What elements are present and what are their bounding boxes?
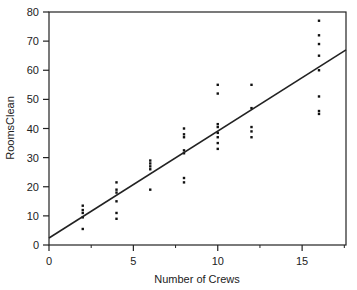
- data-point: [115, 191, 117, 193]
- x-tick-label: 15: [296, 255, 308, 267]
- data-point: [183, 136, 185, 138]
- y-axis: 01020304050607080: [27, 6, 49, 251]
- data-point: [217, 142, 219, 144]
- y-tick-label: 40: [27, 123, 39, 135]
- data-point: [183, 181, 185, 183]
- x-axis: 051015: [46, 245, 344, 267]
- data-point: [149, 159, 151, 161]
- data-point: [115, 188, 117, 190]
- data-point: [149, 162, 151, 164]
- y-tick-label: 80: [27, 6, 39, 18]
- data-point: [217, 92, 219, 94]
- data-point: [250, 126, 252, 128]
- data-point: [318, 110, 320, 112]
- data-point: [183, 133, 185, 135]
- data-points: [82, 20, 321, 231]
- data-point: [217, 123, 219, 125]
- data-point: [149, 168, 151, 170]
- data-point: [318, 113, 320, 115]
- y-tick-label: 70: [27, 35, 39, 47]
- y-axis-title: RoomsClean: [4, 96, 16, 160]
- y-tick-label: 30: [27, 152, 39, 164]
- data-point: [318, 43, 320, 45]
- data-point: [318, 95, 320, 97]
- data-point: [149, 188, 151, 190]
- data-point: [250, 84, 252, 86]
- data-point: [217, 126, 219, 128]
- data-point: [217, 136, 219, 138]
- y-tick-label: 0: [33, 239, 39, 251]
- data-point: [318, 34, 320, 36]
- regression-line: [49, 50, 346, 238]
- data-point: [250, 136, 252, 138]
- data-point: [318, 54, 320, 56]
- data-point: [115, 218, 117, 220]
- data-point: [217, 84, 219, 86]
- fitted-line: [49, 50, 346, 238]
- data-point: [82, 228, 84, 230]
- data-point: [115, 181, 117, 183]
- x-axis-title: Number of Crews: [154, 273, 240, 285]
- data-point: [217, 148, 219, 150]
- data-point: [82, 212, 84, 214]
- data-point: [115, 200, 117, 202]
- data-point: [183, 177, 185, 179]
- x-tick-label: 5: [130, 255, 136, 267]
- data-point: [250, 130, 252, 132]
- data-point: [82, 204, 84, 206]
- data-point: [183, 127, 185, 129]
- y-tick-label: 10: [27, 210, 39, 222]
- x-tick-label: 0: [46, 255, 52, 267]
- y-tick-label: 50: [27, 93, 39, 105]
- data-point: [82, 209, 84, 211]
- data-point: [149, 165, 151, 167]
- scatter-chart: 01020304050607080 051015 Number of Crews…: [0, 0, 357, 290]
- data-point: [115, 212, 117, 214]
- y-tick-label: 20: [27, 181, 39, 193]
- y-tick-label: 60: [27, 64, 39, 76]
- x-tick-label: 10: [212, 255, 224, 267]
- data-point: [318, 69, 320, 71]
- data-point: [318, 20, 320, 22]
